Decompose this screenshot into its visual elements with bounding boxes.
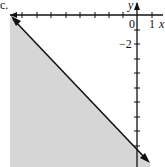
x-tick-label-0: 0 xyxy=(129,17,135,31)
problem-label: c. xyxy=(0,0,8,12)
y-axis-arrow-icon xyxy=(134,2,140,10)
x-axis-arrow-icon xyxy=(10,12,17,18)
y-tick-label-neg2: −2 xyxy=(119,37,132,51)
x-tick-label-1: 1 xyxy=(149,17,155,31)
x-axis-label: x xyxy=(158,17,165,31)
y-axis-label: y xyxy=(127,0,134,12)
graph: c. y x 0 1 −2 xyxy=(0,0,165,167)
